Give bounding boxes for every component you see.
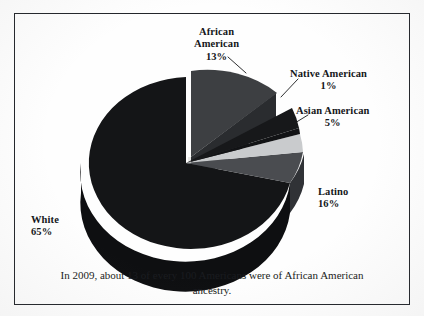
- label-latino-name: Latino: [318, 186, 348, 198]
- label-native-american-percent: 1%: [290, 80, 367, 92]
- label-latino-percent: 16%: [318, 198, 348, 210]
- label-african-american: African American 13%: [194, 26, 239, 63]
- label-african-american-line1: African: [194, 26, 239, 38]
- label-native-american-name: Native American: [290, 68, 367, 80]
- label-white-name: White: [31, 214, 59, 226]
- label-latino: Latino 16%: [318, 186, 348, 211]
- label-asian-american-name: Asian American: [296, 105, 369, 117]
- figure-caption: In 2009, about 13 of every 100 Americans…: [40, 268, 384, 298]
- figure-canvas: African American 13% Native American 1% …: [0, 0, 424, 316]
- label-native-american: Native American 1%: [290, 68, 367, 93]
- label-asian-american-percent: 5%: [296, 117, 369, 129]
- label-african-american-line2: American: [194, 38, 239, 50]
- label-white: White 65%: [31, 214, 59, 239]
- label-white-percent: 65%: [31, 226, 59, 238]
- label-asian-american: Asian American 5%: [296, 105, 369, 130]
- label-african-american-percent: 13%: [194, 51, 239, 63]
